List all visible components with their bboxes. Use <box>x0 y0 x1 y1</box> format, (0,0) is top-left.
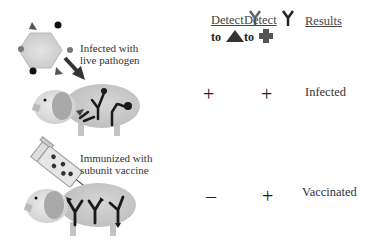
illustration <box>0 0 180 246</box>
vaccine-label: Immunized with subunit vaccine <box>80 152 152 176</box>
row-vaccinated-col2: + <box>262 186 273 206</box>
vaccinated-pig <box>24 183 136 236</box>
to-label: to <box>211 30 221 44</box>
infected-pig <box>32 84 140 136</box>
header-target-triangle: to <box>211 27 245 45</box>
header-results: Results <box>305 14 342 29</box>
row-infected-col1: + <box>203 84 214 104</box>
row-infected-col2: + <box>261 84 272 104</box>
infection-label: Infected with live pathogen <box>80 42 140 66</box>
row-vaccinated-col1: – <box>206 186 216 206</box>
header-detect-label: Detect <box>244 13 277 27</box>
header-target-cross: to <box>244 27 274 45</box>
header-detect-cross: Detect <box>244 10 295 28</box>
triangle-antigen-icon <box>225 29 245 43</box>
infection-label-line1: Infected with <box>80 42 140 54</box>
to-label: to <box>244 30 254 44</box>
vaccine-label-line2: subunit vaccine <box>80 164 152 176</box>
antibody-icon <box>281 10 295 26</box>
row-vaccinated-result: Vaccinated <box>302 185 357 200</box>
cross-antigen-icon <box>258 28 274 44</box>
infection-label-line2: live pathogen <box>80 54 140 66</box>
row-infected-result: Infected <box>305 85 346 100</box>
vaccine-label-line1: Immunized with <box>80 152 152 164</box>
header-detect-label: Detect <box>211 13 244 27</box>
pathogen-icon <box>18 22 73 76</box>
